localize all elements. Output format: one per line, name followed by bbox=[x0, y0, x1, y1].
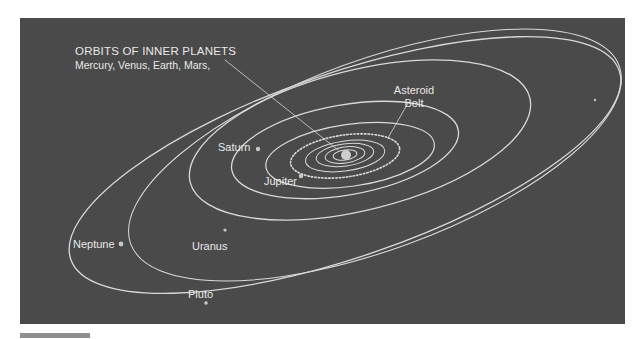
jupiter-label: Jupiter bbox=[264, 175, 297, 188]
footer-bar bbox=[20, 333, 90, 338]
pluto-marker bbox=[204, 301, 208, 305]
saturn-marker bbox=[256, 147, 260, 151]
star-dot bbox=[594, 99, 596, 101]
asteroid-belt-label: Asteroid Belt bbox=[390, 84, 438, 109]
pluto-label: Pluto bbox=[188, 288, 213, 301]
asteroid-belt-label-line2: Belt bbox=[390, 97, 438, 110]
asteroid-belt-label-line1: Asteroid bbox=[390, 84, 438, 97]
saturn-label: Saturn bbox=[218, 141, 250, 154]
uranus-marker bbox=[223, 228, 226, 231]
sun bbox=[341, 150, 351, 160]
inner-planets-title: ORBITS OF INNER PLANETS bbox=[75, 45, 236, 58]
solar-system-diagram: ORBITS OF INNER PLANETS Mercury, Venus, … bbox=[20, 18, 625, 324]
jupiter-marker bbox=[299, 174, 303, 178]
neptune-marker bbox=[119, 242, 124, 247]
neptune-label: Neptune bbox=[73, 238, 115, 251]
inner-planets-subtitle: Mercury, Venus, Earth, Mars, bbox=[75, 59, 210, 71]
uranus-label: Uranus bbox=[192, 240, 227, 253]
